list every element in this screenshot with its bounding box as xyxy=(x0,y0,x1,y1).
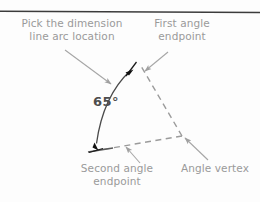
angle-dimension-value: 65° xyxy=(80,94,132,109)
arc-arrowhead-bottom xyxy=(93,143,99,151)
angle-leg-first xyxy=(140,64,183,137)
top-divider-rule xyxy=(0,11,260,12)
leader-first-endpoint xyxy=(145,52,168,71)
label-pick-dimension-arc: Pick the dimension line arc location xyxy=(8,17,136,43)
diagram-page: Pick the dimension line arc location Fir… xyxy=(0,0,260,202)
leader-second-endpoint xyxy=(126,147,140,163)
label-second-angle-endpoint: Second angle endpoint xyxy=(62,162,172,188)
label-angle-vertex: Angle vertex xyxy=(172,162,258,175)
leader-angle-vertex xyxy=(185,138,208,160)
leader-pick-arc xyxy=(65,50,111,84)
label-first-angle-endpoint: First angle endpoint xyxy=(136,17,228,43)
